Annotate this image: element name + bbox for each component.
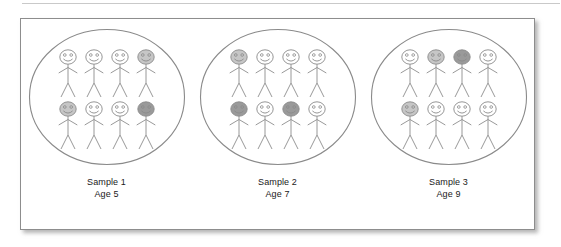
stick-figure [226, 47, 251, 99]
figures-row-1 [55, 47, 158, 99]
figure-legs [455, 135, 469, 149]
stick-figure [475, 99, 500, 151]
sample-caption: Sample 2Age 7 [258, 176, 297, 200]
stick-figure [278, 99, 303, 151]
figure-head [230, 101, 246, 115]
figure-legs [481, 135, 495, 149]
stick-figure [449, 99, 474, 151]
stick-figure [252, 47, 277, 99]
figure-legs [284, 135, 298, 149]
sample-group-3: Sample 3Age 9 [366, 27, 531, 200]
sample-groups-row: Sample 1Age 5Sample 2Age 7Sample 3Age 9 [21, 19, 534, 229]
figure-legs [455, 83, 469, 97]
figures-grid [226, 47, 329, 151]
sample-age-label: Age 5 [87, 188, 126, 200]
figure-frame: Sample 1Age 5Sample 2Age 7Sample 3Age 9 [20, 18, 535, 230]
population-oval-container [369, 27, 529, 170]
figures-row-1 [226, 47, 329, 99]
top-divider-rule [22, 3, 560, 4]
figure-head [401, 101, 417, 115]
figure-legs [429, 83, 443, 97]
sample-name-label: Sample 2 [258, 176, 297, 188]
figure-head [282, 49, 298, 63]
stick-figure [133, 47, 158, 99]
stick-figure [107, 99, 132, 151]
sample-name-label: Sample 1 [87, 176, 126, 188]
figure-head [137, 101, 153, 115]
figures-row-2 [226, 99, 329, 151]
stick-figure [107, 47, 132, 99]
figure-legs [258, 135, 272, 149]
figures-grid [55, 47, 158, 151]
stick-figure [226, 99, 251, 151]
sample-caption: Sample 1Age 5 [87, 176, 126, 200]
stick-figure [304, 99, 329, 151]
figure-head [308, 49, 324, 63]
figure-head [111, 101, 127, 115]
population-oval-container [27, 27, 187, 170]
stick-figure [397, 99, 422, 151]
figure-legs [87, 135, 101, 149]
figure-head [453, 49, 469, 63]
figure-legs [403, 135, 417, 149]
figure-head [479, 101, 495, 115]
figures-row-2 [397, 99, 500, 151]
figure-legs [87, 83, 101, 97]
stick-figure [449, 47, 474, 99]
figure-legs [232, 83, 246, 97]
stick-figure [81, 47, 106, 99]
figure-head [256, 101, 272, 115]
figure-head [308, 101, 324, 115]
stick-figure [81, 99, 106, 151]
figures-row-1 [397, 47, 500, 99]
figure-head [137, 49, 153, 63]
sample-group-2: Sample 2Age 7 [195, 27, 360, 200]
figure-legs [113, 83, 127, 97]
figure-head [59, 49, 75, 63]
stick-figure [133, 99, 158, 151]
stick-figure [252, 99, 277, 151]
sample-name-label: Sample 3 [429, 176, 468, 188]
figure-legs [113, 135, 127, 149]
figure-legs [258, 83, 272, 97]
figure-head [479, 49, 495, 63]
figure-head [85, 101, 101, 115]
figure-legs [139, 135, 153, 149]
figure-head [59, 101, 75, 115]
stick-figure [304, 47, 329, 99]
figure-head [427, 101, 443, 115]
stick-figure [423, 47, 448, 99]
figure-legs [284, 83, 298, 97]
figure-head [453, 101, 469, 115]
sample-age-label: Age 9 [429, 188, 468, 200]
figure-legs [61, 83, 75, 97]
sample-age-label: Age 7 [258, 188, 297, 200]
population-oval-container [198, 27, 358, 170]
figure-head [230, 49, 246, 63]
figure-head [111, 49, 127, 63]
figure-head [427, 49, 443, 63]
sample-caption: Sample 3Age 9 [429, 176, 468, 200]
sample-group-1: Sample 1Age 5 [24, 27, 189, 200]
stick-figure [475, 47, 500, 99]
figure-head [256, 49, 272, 63]
stick-figure [397, 47, 422, 99]
stick-figure [423, 99, 448, 151]
figure-legs [61, 135, 75, 149]
figure-head [401, 49, 417, 63]
stick-figure [55, 99, 80, 151]
stick-figure [55, 47, 80, 99]
figures-row-2 [55, 99, 158, 151]
figure-legs [310, 135, 324, 149]
figure-head [282, 101, 298, 115]
figure-legs [232, 135, 246, 149]
figure-legs [403, 83, 417, 97]
figure-head [85, 49, 101, 63]
figure-legs [310, 83, 324, 97]
figure-legs [139, 83, 153, 97]
stick-figure [278, 47, 303, 99]
figure-legs [481, 83, 495, 97]
figures-grid [397, 47, 500, 151]
figure-legs [429, 135, 443, 149]
